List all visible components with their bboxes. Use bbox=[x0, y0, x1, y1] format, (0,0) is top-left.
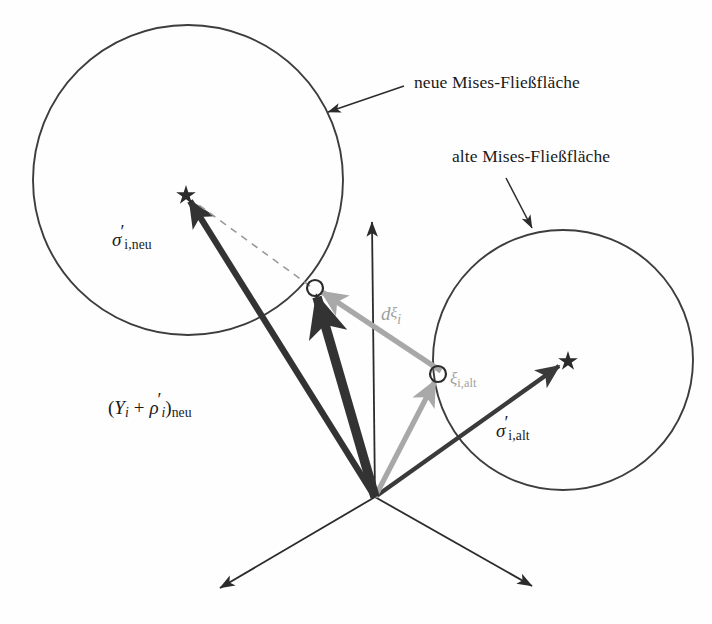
label-d-xi-i-subscript: i bbox=[397, 312, 401, 327]
star-marker-sigma-alt bbox=[558, 351, 578, 370]
label-xi-i-alt: ξi,alt bbox=[450, 369, 476, 391]
vector-yield-radius-neu bbox=[317, 297, 375, 497]
vector-xi-i-alt bbox=[375, 381, 435, 497]
label-neue-mises-fliessflaeche: neue Mises-Fließfläche bbox=[414, 72, 580, 93]
label-sigma-i-neu-subscript: i,neu bbox=[124, 237, 151, 252]
mises-yield-surface-diagram bbox=[0, 0, 712, 624]
label-yield-outer-subscript: neu bbox=[172, 405, 192, 420]
label-d-xi-i-d: d bbox=[381, 303, 391, 324]
leader-line-alte-fliessflaeche bbox=[506, 178, 532, 228]
label-yield-Y-subscript: i bbox=[125, 405, 129, 420]
label-sigma-i-alt-subscript: i,alt bbox=[508, 428, 529, 443]
label-xi-i-alt-subscript: i,alt bbox=[457, 376, 476, 390]
circle-neue-mises-fliessflaeche bbox=[33, 25, 343, 335]
dashed-radius-neu bbox=[196, 203, 310, 286]
vector-sigma-i-neu bbox=[190, 201, 375, 497]
label-sigma-i-alt: σ′i,alt bbox=[496, 413, 530, 444]
label-yield-radius-neu: (Yi+ρ′i)neu bbox=[108, 390, 192, 421]
leader-line-neue-fliessflaeche bbox=[328, 86, 404, 112]
axis-lower-right bbox=[375, 497, 532, 586]
axis-lower-left bbox=[220, 497, 375, 588]
axis-up bbox=[372, 222, 375, 497]
label-yield-plus: + bbox=[134, 397, 145, 418]
figure-root: neue Mises-Fließfläche alte Mises-Fließf… bbox=[0, 0, 712, 624]
label-d-xi-i: dξi bbox=[381, 303, 401, 328]
label-yield-Y: Y bbox=[114, 397, 125, 418]
label-sigma-i-neu: σ′i,neu bbox=[112, 222, 152, 253]
marker-backstress-neu bbox=[307, 280, 323, 296]
label-alte-mises-fliessflaeche: alte Mises-Fließfläche bbox=[452, 146, 610, 167]
